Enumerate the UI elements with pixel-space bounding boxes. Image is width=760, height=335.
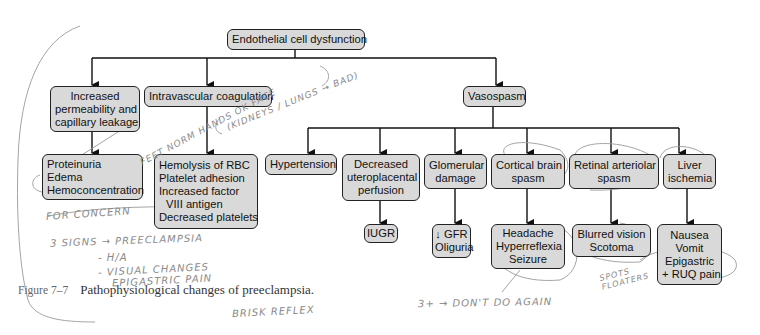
node-nausea-epigastric-pain: Nausea Vomit Epigastric + RUQ pain [657, 224, 722, 285]
node-label: spasm [496, 172, 560, 185]
node-label: damage [429, 172, 482, 185]
node-label: Increased [55, 90, 135, 103]
node-label: Edema [47, 171, 138, 184]
node-label: + RUQ pain [662, 268, 717, 281]
node-label: VIII antigen [159, 198, 253, 211]
node-label: IUGR [367, 227, 395, 240]
node-label: Hemoconcentration [47, 184, 138, 197]
node-hypertension: Hypertension [265, 154, 337, 175]
node-proteinuria-edema: Proteinuria Edema Hemoconcentration [42, 154, 143, 200]
node-label: Hemolysis of RBC [159, 159, 253, 172]
node-label: Headache [496, 227, 560, 240]
handwritten-note: - H/A [98, 252, 128, 263]
node-label: uteroplacental [347, 171, 415, 184]
node-label: perfusion [347, 184, 415, 197]
node-label: Glomerular [429, 159, 482, 172]
node-iugr: IUGR [364, 224, 398, 243]
node-label: Vomit [662, 242, 717, 255]
node-label: Liver [668, 159, 711, 172]
node-increased-permeability: Increased permeability and capillary lea… [50, 86, 140, 132]
node-label: Cortical brain [496, 159, 560, 172]
node-label: Retinal arteriolar [574, 159, 654, 172]
node-liver-ischemia: Liver ischemia [663, 154, 716, 189]
node-label: permeability and [55, 103, 135, 116]
node-label: Decreased platelets [159, 211, 253, 224]
node-label: capillary leakage [55, 116, 135, 129]
node-label: Platelet adhesion [159, 172, 253, 185]
flowchart-canvas: Endothelial cell dysfunction Increased p… [0, 0, 760, 335]
node-label: Scotoma [577, 241, 646, 254]
node-label: Endothelial cell dysfunction [232, 33, 360, 46]
node-label: Proteinuria [47, 158, 138, 171]
node-retinal-arteriolar-spasm: Retinal arteriolar spasm [569, 154, 659, 189]
handwritten-note: 3+ → DON'T DO AGAIN [418, 296, 552, 309]
node-label: ischemia [668, 172, 711, 185]
node-label: Vasospasm [468, 90, 521, 103]
node-headache-hyperreflexia-seizure: Headache Hyperreflexia Seizure [491, 224, 565, 269]
node-label: Decreased [347, 158, 415, 171]
node-label: Increased factor [159, 185, 253, 198]
node-label: Epigastric [662, 255, 717, 268]
node-vasospasm: Vasospasm [463, 86, 526, 107]
node-label: spasm [574, 172, 654, 185]
node-blurred-vision-scotoma: Blurred vision Scotoma [572, 224, 651, 257]
node-label: ↓ GFR [435, 228, 468, 241]
node-label: Hyperreflexia [496, 240, 560, 253]
node-hemolysis: Hemolysis of RBC Platelet adhesion Incre… [154, 154, 258, 229]
node-gfr-oliguria: ↓ GFR Oliguria [432, 224, 471, 258]
node-label: Hypertension [270, 158, 332, 171]
node-decreased-uteroplacental-perfusion: Decreased uteroplacental perfusion [342, 154, 420, 201]
node-label: Nausea [662, 229, 717, 242]
node-cortical-brain-spasm: Cortical brain spasm [491, 154, 565, 189]
node-glomerular-damage: Glomerular damage [424, 154, 487, 189]
node-label: Seizure [496, 253, 560, 266]
node-endothelial-dysfunction: Endothelial cell dysfunction [227, 29, 365, 50]
figure-number: Figure 7–7 [18, 284, 68, 296]
node-label: Blurred vision [577, 228, 646, 241]
node-label: Oliguria [435, 241, 468, 254]
